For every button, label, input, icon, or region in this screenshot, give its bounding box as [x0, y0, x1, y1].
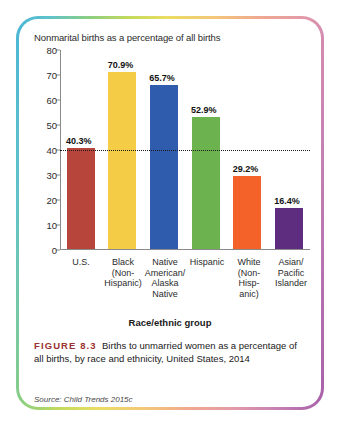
plot-area: 01020304050607080 40.3%70.9%65.7%52.9%29… — [60, 50, 310, 250]
bar-value-label: 65.7% — [149, 73, 175, 83]
x-category-label-line: U.S. — [57, 257, 105, 268]
x-category-label-line: Hisp- — [225, 278, 273, 289]
bar-value-label: 16.4% — [274, 196, 300, 206]
y-tick-label: 10 — [46, 220, 57, 231]
y-tick-label: 50 — [46, 120, 57, 131]
x-category-label-line: Pacific — [267, 268, 315, 279]
bar-slot: 65.7% — [143, 49, 185, 249]
bar-slot: 52.9% — [185, 49, 227, 249]
x-axis-category-labels: U.S.Black(Non-Hispanic)NativeAmerican/Al… — [60, 257, 312, 315]
x-category-label: Hispanic — [183, 257, 231, 268]
reference-line-40 — [60, 150, 310, 151]
y-tick-label: 60 — [46, 95, 57, 106]
y-tick-label: 70 — [46, 70, 57, 81]
chart-title: Nonmarital births as a percentage of all… — [34, 32, 220, 43]
bar-slot: 29.2% — [227, 49, 269, 249]
x-category-label-line: Hispanic) — [99, 278, 147, 289]
chart-plot: 01020304050607080 40.3%70.9%65.7%52.9%29… — [34, 46, 312, 258]
x-category-label: NativeAmerican/AlaskaNative — [141, 257, 189, 299]
x-category-label-line: American/ — [141, 268, 189, 279]
figure-card: Nonmarital births as a percentage of all… — [16, 16, 324, 410]
y-tick-label: 0 — [52, 245, 57, 256]
figure-number: FIGURE 8.3 — [34, 340, 97, 351]
x-axis-line — [60, 249, 310, 250]
figure-caption: FIGURE 8.3 Births to unmarried women as … — [34, 339, 307, 365]
bar-value-label: 52.9% — [191, 105, 217, 115]
bar-value-label: 70.9% — [108, 60, 134, 70]
x-category-label-line: (Non- — [225, 268, 273, 279]
x-category-label-line: Black — [99, 257, 147, 268]
x-category-label-line: anic) — [225, 289, 273, 300]
x-category-label-line: Hispanic — [183, 257, 231, 268]
bar-slot: 40.3% — [60, 49, 102, 249]
x-category-label: Black(Non-Hispanic) — [99, 257, 147, 289]
figure-inner: Nonmarital births as a percentage of all… — [19, 19, 321, 407]
x-category-label: Asian/PacificIslander — [267, 257, 315, 289]
bar-slot: 70.9% — [102, 49, 144, 249]
bar-value-label: 29.2% — [233, 164, 259, 174]
x-category-label-line: Native — [141, 289, 189, 300]
x-category-label-line: Islander — [267, 278, 315, 289]
x-category-label-line: White — [225, 257, 273, 268]
x-category-label-line: Alaska — [141, 278, 189, 289]
x-category-label: U.S. — [57, 257, 105, 268]
bar[interactable] — [233, 176, 261, 249]
y-tick-label: 40 — [46, 145, 57, 156]
figure-source: Source: Child Trends 2015c — [34, 395, 133, 404]
bar[interactable] — [67, 148, 95, 249]
y-tick-label: 20 — [46, 195, 57, 206]
bar-value-label: 40.3% — [66, 136, 92, 146]
x-category-label-line: Native — [141, 257, 189, 268]
bar[interactable] — [150, 85, 178, 249]
bar-slot: 16.4% — [268, 49, 310, 249]
bar[interactable] — [275, 208, 303, 249]
x-category-label-line: (Non- — [99, 268, 147, 279]
x-axis-title: Race/ethnic group — [19, 317, 321, 328]
y-tick-label: 30 — [46, 170, 57, 181]
bar[interactable] — [192, 117, 220, 249]
x-category-label-line: Asian/ — [267, 257, 315, 268]
bar[interactable] — [108, 72, 136, 249]
y-tick-label: 80 — [46, 45, 57, 56]
bar-series: 40.3%70.9%65.7%52.9%29.2%16.4% — [60, 49, 310, 249]
x-category-label: White(Non-Hisp-anic) — [225, 257, 273, 299]
